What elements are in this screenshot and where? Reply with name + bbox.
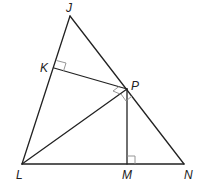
right-angle-marker-p-upper xyxy=(113,87,120,95)
right-angle-marker-m xyxy=(127,156,135,164)
label-m: M xyxy=(122,168,132,182)
label-p: P xyxy=(131,79,139,93)
label-n: N xyxy=(184,168,193,182)
segment-kp xyxy=(54,68,127,89)
segment-jl xyxy=(22,16,70,164)
label-j: J xyxy=(65,1,73,15)
label-k: K xyxy=(40,61,49,75)
label-l: L xyxy=(16,168,23,182)
triangle-diagram: J K P L M N xyxy=(0,0,205,188)
segment-lp xyxy=(22,89,127,164)
